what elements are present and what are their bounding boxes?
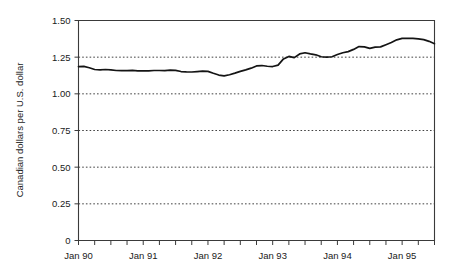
chart-canvas: 00.250.500.751.001.251.50 Jan 90Jan 91Ja… [0,0,456,276]
y-tick-label: 0.75 [52,125,71,136]
x-tick-label: Jan 92 [194,250,223,261]
y-axis-title: Canadian dollars per U.S. dollar [14,63,25,198]
x-tick-label: Jan 91 [129,250,158,261]
y-tick-label: 1.00 [52,88,71,99]
x-tick-label: Jan 93 [258,250,287,261]
y-tick-label: 0 [65,235,70,246]
x-tick-label: Jan 95 [388,250,417,261]
line-chart-figure: 00.250.500.751.001.251.50 Jan 90Jan 91Ja… [0,0,456,276]
y-tick-label: 0.25 [52,198,71,209]
y-tick-label: 0.50 [52,162,71,173]
y-tick-label: 1.50 [52,15,71,26]
x-tick-label: Jan 94 [323,250,352,261]
y-tick-label: 1.25 [52,52,71,63]
x-tick-label: Jan 90 [64,250,93,261]
